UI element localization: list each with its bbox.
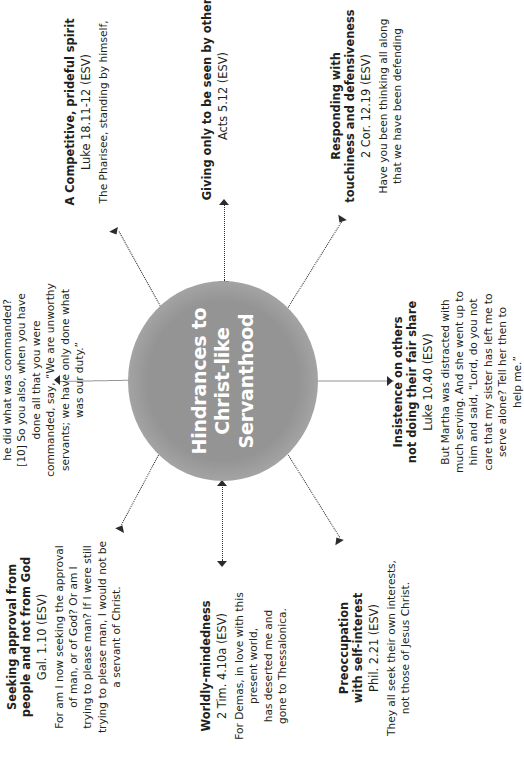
node-reference: Phil. 2.21 (ESV) xyxy=(367,542,382,754)
node-body: Have you been thinking all along that we… xyxy=(376,0,405,224)
node-body: For Demas, in love with this present wor… xyxy=(232,566,290,762)
node-seeking-approval: Seeking approval from people and not fro… xyxy=(6,530,124,744)
node-reference: 2 Tim. 4.10a (ESV) xyxy=(215,566,230,762)
node-body: They all seek their own interests, not t… xyxy=(384,542,413,754)
connector-worldly-mindedness xyxy=(222,481,223,561)
node-heading: Worldly-mindedness xyxy=(200,566,214,762)
node-giving-to-be-seen: Giving only to be seen by others Acts 5.… xyxy=(201,0,233,214)
connector-insistence-fair-share xyxy=(306,381,394,382)
node-heading: Preoccupation with self-interest xyxy=(338,542,366,754)
node-reference: Acts 5.12 (ESV) xyxy=(216,0,231,214)
node-worldly-mindedness: Worldly-mindedness 2 Tim. 4.10a (ESV) Fo… xyxy=(200,566,289,762)
connector-preoccupation-self-interest xyxy=(284,449,340,538)
node-body: But Martha was distracted with much serv… xyxy=(438,274,524,490)
node-heading: Seeking approval from people and not fro… xyxy=(6,530,34,744)
node-reference: Gal. 1.10 (ESV) xyxy=(35,530,50,744)
node-heading: Giving only to be seen by others xyxy=(201,0,215,214)
node-heading: Insistence on others not doing their fai… xyxy=(392,274,420,490)
connector-responding-touchiness xyxy=(286,222,342,311)
node-preoccupation-self-interest: Preoccupation with self-interest Phil. 2… xyxy=(338,542,412,754)
node-competitive-prideful-spirit: A Competitive, prideful spirit Luke 18.1… xyxy=(64,0,110,232)
center-node-hindrances: Hindrances to Christ-like Servanthood xyxy=(128,281,318,481)
node-heading: A Competitive, prideful spirit xyxy=(64,0,78,232)
node-reference: 2 Cor. 12.19 (ESV) xyxy=(359,0,374,224)
node-body: Does he thank the servant because he did… xyxy=(0,271,86,489)
center-node-title: Hindrances to Christ-like Servanthood xyxy=(188,308,258,455)
node-heading: Responding with touchiness and defensive… xyxy=(330,0,358,224)
node-responding-touchiness: Responding with touchiness and defensive… xyxy=(330,0,404,224)
node-insistence-fair-share: Insistence on others not doing their fai… xyxy=(392,274,524,490)
node-body: The Pharisee, standing by himself, xyxy=(96,0,110,232)
node-reference: Luke 10.40 (ESV) xyxy=(421,274,436,490)
node-scripting-out-order: Scripting out the order and extent of ou… xyxy=(0,271,86,489)
arrowhead-node-competitive xyxy=(109,227,121,237)
node-body: For am I now seeking the approval of man… xyxy=(52,530,124,744)
node-reference: Luke 18.11-12 (ESV) xyxy=(79,0,94,232)
